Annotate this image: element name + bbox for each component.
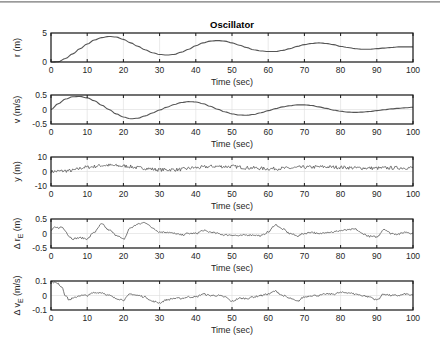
x-tick-label: 60 [263,251,273,261]
subplot-1: 010203040506070809010005Time (sec)r (m) [12,28,420,87]
x-tick-label: 40 [191,189,201,199]
y-axis-label: Δ rE (m) [12,218,24,250]
x-tick-label: 30 [155,313,165,323]
oscillator-figure: Oscillator 010203040506070809010005Time … [0,0,440,352]
y-tick-label: 0 [42,229,47,239]
x-tick-label: 0 [49,189,54,199]
x-tick-label: 90 [372,127,382,137]
x-tick-label: 50 [227,189,237,199]
x-tick-label: 0 [49,251,54,261]
y-tick-label: 0 [42,167,47,177]
x-tick-label: 20 [119,189,129,199]
x-tick-label: 20 [119,313,129,323]
x-tick-label: 30 [155,251,165,261]
x-tick-label: 60 [263,189,273,199]
x-tick-label: 70 [300,189,310,199]
x-tick-label: 80 [336,127,346,137]
x-tick-label: 100 [406,251,420,261]
y-tick-label: 0 [42,291,47,301]
x-tick-label: 60 [263,65,273,75]
subplot-3: 0102030405060708090100-10010Time (sec)y … [12,152,420,211]
y-tick-label: 0.1 [35,276,47,286]
x-tick-label: 70 [300,65,310,75]
x-tick-label: 80 [336,65,346,75]
x-tick-label: 10 [82,65,92,75]
x-tick-label: 100 [406,65,420,75]
x-tick-label: 70 [300,313,310,323]
x-axis-label: Time (sec) [211,201,253,211]
x-tick-label: 50 [227,251,237,261]
x-tick-label: 10 [82,313,92,323]
x-axis-label: Time (sec) [211,263,253,273]
x-tick-label: 80 [336,189,346,199]
x-axis-label: Time (sec) [211,139,253,149]
y-tick-label: 0.5 [35,90,47,100]
x-axis-label: Time (sec) [211,325,253,335]
y-tick-label: -10 [35,181,48,191]
subplot-5: 0102030405060708090100-0.100.1Time (sec)… [12,275,420,335]
y-tick-label: 10 [38,152,48,162]
y-axis-label: y (m) [12,161,22,182]
subplot-2: 0102030405060708090100-0.500.5Time (sec)… [12,90,420,149]
y-axis-label: Δ vE (m/s) [12,275,24,315]
x-tick-label: 90 [372,65,382,75]
figure-title: Oscillator [210,19,254,30]
x-tick-label: 0 [49,65,54,75]
x-tick-label: 40 [191,313,201,323]
x-tick-label: 80 [336,251,346,261]
x-tick-label: 40 [191,65,201,75]
y-tick-label: -0.5 [32,243,47,253]
x-tick-label: 20 [119,251,129,261]
x-tick-label: 100 [406,127,420,137]
x-tick-label: 70 [300,127,310,137]
y-tick-label: 5 [42,28,47,38]
x-tick-label: 90 [372,251,382,261]
x-tick-label: 10 [82,189,92,199]
x-tick-label: 80 [336,313,346,323]
x-tick-label: 60 [263,127,273,137]
x-tick-label: 0 [49,127,54,137]
x-tick-label: 30 [155,127,165,137]
x-tick-label: 30 [155,65,165,75]
y-tick-label: -0.1 [32,305,47,315]
subplot-4: 0102030405060708090100-0.500.5Time (sec)… [12,214,420,273]
x-tick-label: 40 [191,127,201,137]
x-tick-label: 50 [227,313,237,323]
x-axis-label: Time (sec) [211,77,253,87]
y-tick-label: 0.5 [35,214,47,224]
x-tick-label: 10 [82,251,92,261]
x-tick-label: 50 [227,65,237,75]
x-tick-label: 30 [155,189,165,199]
x-tick-label: 50 [227,127,237,137]
y-axis-label: r (m) [12,38,22,57]
y-axis-label: v (m/s) [12,96,22,124]
y-tick-label: -0.5 [32,119,47,129]
x-tick-label: 60 [263,313,273,323]
x-tick-label: 20 [119,65,129,75]
x-tick-label: 40 [191,251,201,261]
x-tick-label: 10 [82,127,92,137]
x-tick-label: 90 [372,189,382,199]
x-tick-label: 100 [406,313,420,323]
x-tick-label: 20 [119,127,129,137]
x-tick-label: 100 [406,189,420,199]
x-tick-label: 70 [300,251,310,261]
x-tick-label: 0 [49,313,54,323]
y-tick-label: 0 [42,105,47,115]
x-tick-label: 90 [372,313,382,323]
y-tick-label: 0 [42,57,47,67]
